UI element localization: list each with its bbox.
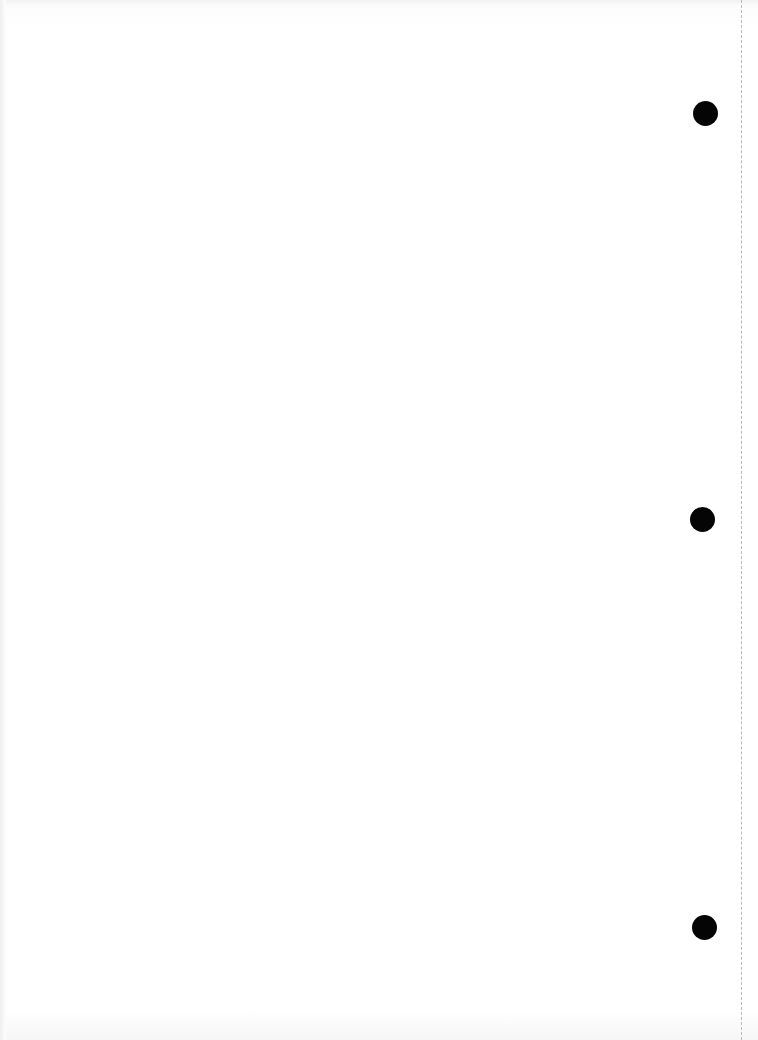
blank-page [0, 0, 758, 1040]
punch-hole-middle [690, 507, 715, 532]
punch-hole-bottom [692, 915, 717, 940]
punch-hole-top [693, 101, 718, 126]
page-edge-shadow [0, 0, 6, 1040]
perforation-line [741, 0, 742, 1040]
